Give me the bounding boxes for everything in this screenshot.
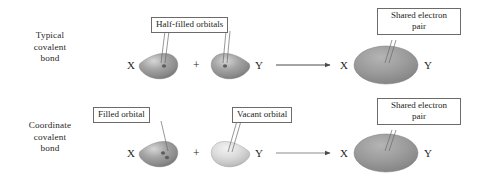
callout-shared-electron-pair-top: Shared electron pair [377, 8, 461, 35]
merged-orbital-coordinate [354, 134, 418, 172]
atom-label-coordinate-product-left: X [340, 147, 348, 159]
callout-filled-orbital: Filled orbital [93, 107, 150, 123]
atom-label-coordinate-product-right: Y [424, 147, 432, 159]
callout-vacant-orbital: Vacant orbital [232, 107, 292, 123]
callout-text-line: Filled orbital [98, 109, 145, 120]
orbital-lobe-coordinate-left [139, 141, 178, 166]
callout-text-line: pair [382, 111, 456, 122]
atom-label-coordinate-reactant-left: X [127, 147, 135, 159]
electron-dot [162, 64, 166, 67]
atom-label-typical-reactant-left: X [127, 59, 135, 71]
orbital-lobe-typical-left [139, 53, 178, 78]
atom-label-typical-reactant-right: Y [255, 59, 263, 71]
electron-dot [165, 156, 169, 159]
callout-text-line: Vacant orbital [237, 109, 287, 120]
electron-dot [223, 64, 227, 67]
merged-orbital-typical [354, 46, 418, 84]
callout-text-line: pair [382, 21, 456, 32]
atom-label-coordinate-reactant-right: Y [255, 147, 263, 159]
atom-label-typical-product-right: Y [424, 59, 432, 71]
orbital-lobe-typical-right [211, 53, 250, 78]
orbital-bonding-diagram: Typical covalent bond Coordinate covalen… [0, 0, 480, 180]
operator-plus-coordinate: + [193, 147, 200, 159]
atom-label-typical-product-left: X [340, 59, 348, 71]
orbital-lobe-coordinate-right [211, 141, 250, 166]
callout-text-line: Shared electron [382, 100, 456, 111]
operator-plus-typical: + [193, 59, 200, 71]
electron-dot [161, 151, 165, 154]
callout-half-filled-orbitals: Half-filled orbitals [151, 17, 228, 33]
callout-text-line: Shared electron [382, 10, 456, 21]
callout-text-line: Half-filled orbitals [156, 19, 223, 30]
callout-shared-electron-pair-bottom: Shared electron pair [377, 98, 461, 125]
